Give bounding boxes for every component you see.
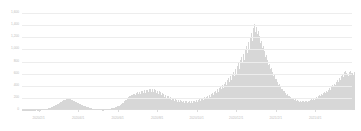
y-axis-tick-label: 400 — [2, 84, 19, 87]
x-axis-tick-mark — [197, 110, 198, 112]
x-axis-tick-label: 2020/4/1 — [72, 117, 84, 120]
x-axis-tick-label: 2021/4/1 — [309, 117, 321, 120]
x-axis-tick-mark — [157, 110, 158, 112]
y-axis-tick-label: 0 — [2, 108, 19, 111]
gridline — [22, 62, 352, 63]
x-axis-tick-mark — [78, 110, 79, 112]
y-axis-tick-label: 1,600 — [2, 11, 19, 14]
y-axis-tick-label: 800 — [2, 60, 19, 63]
x-axis-tick-mark — [236, 110, 237, 112]
plot-area — [22, 13, 352, 110]
x-axis-tick-label: 2020/12/1 — [229, 117, 243, 120]
gridline — [22, 86, 352, 87]
gridline — [22, 98, 352, 99]
x-axis-tick-label: 2020/6/1 — [111, 117, 123, 120]
x-axis-line — [22, 109, 352, 110]
x-axis-tick-mark — [39, 110, 40, 112]
y-axis-tick-label: 1,400 — [2, 24, 19, 27]
bar-chart: 02004006008001,0001,2001,4001,600 2020/2… — [0, 0, 361, 131]
gridline — [22, 74, 352, 75]
bar — [354, 72, 355, 110]
gridline — [22, 13, 352, 14]
y-axis-tick-label: 200 — [2, 96, 19, 99]
x-axis-tick-mark — [118, 110, 119, 112]
x-axis-tick-mark — [276, 110, 277, 112]
x-axis-tick-label: 2020/2/1 — [32, 117, 44, 120]
x-axis-tick-mark — [315, 110, 316, 112]
y-axis-tick-label: 1,000 — [2, 48, 19, 51]
y-axis-tick-label: 600 — [2, 72, 19, 75]
gridline — [22, 37, 352, 38]
x-axis-tick-label: 2020/10/1 — [190, 117, 204, 120]
x-axis-tick-label: 2020/8/1 — [151, 117, 163, 120]
x-axis-tick-label: 2021/2/1 — [270, 117, 282, 120]
gridline — [22, 49, 352, 50]
gridline — [22, 25, 352, 26]
y-axis-tick-label: 1,200 — [2, 36, 19, 39]
